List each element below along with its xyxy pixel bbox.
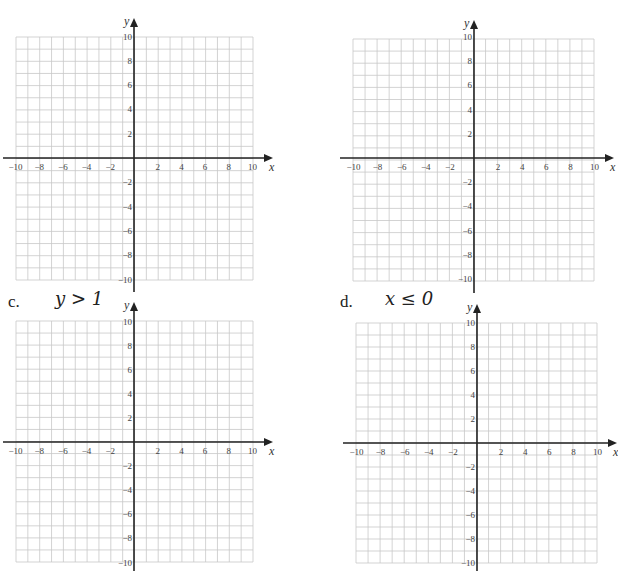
x-tick-label: 10 [590, 162, 600, 172]
y-axis-arrow-icon [130, 302, 138, 311]
x-tick-label: −2 [106, 162, 116, 172]
y-tick-label: 8 [468, 56, 473, 66]
coordinate-plane-d: xy−10−8−6−4−2246810108642−2−4−6−8−10 [343, 300, 618, 571]
x-tick-label: 6 [544, 162, 549, 172]
y-tick-label: 4 [471, 390, 476, 400]
x-tick-label: 4 [179, 446, 184, 456]
x-tick-label: 8 [227, 162, 232, 172]
x-tick-label: 2 [155, 446, 160, 456]
y-tick-label: −6 [122, 509, 132, 519]
y-tick-label: 8 [128, 341, 133, 351]
y-tick-label: −10 [461, 558, 476, 568]
coordinate-plane-b: xy−10−8−6−4−2246810108642−2−4−6−8−10 [340, 16, 616, 293]
x-tick-label: −10 [346, 162, 361, 172]
x-tick-label: 2 [155, 162, 160, 172]
y-tick-label: 2 [128, 413, 133, 423]
y-tick-label: −4 [465, 486, 475, 496]
x-tick-label: 6 [203, 446, 208, 456]
x-tick-label: 10 [248, 162, 258, 172]
x-tick-label: 2 [496, 162, 501, 172]
y-tick-label: 6 [468, 80, 473, 90]
y-tick-label: 6 [471, 366, 476, 376]
x-tick-label: −4 [421, 162, 431, 172]
x-tick-label: −8 [373, 162, 383, 172]
y-tick-label: 8 [128, 56, 133, 66]
x-tick-label: 8 [571, 447, 576, 457]
coordinate-grids: xy−10−8−6−4−2246810108642−2−4−6−8−10xy−1… [0, 0, 618, 571]
x-tick-label: 4 [179, 162, 184, 172]
y-tick-label: −2 [122, 461, 132, 471]
x-tick-label: 10 [593, 447, 603, 457]
x-tick-label: −10 [8, 446, 23, 456]
x-tick-label: 8 [227, 446, 232, 456]
y-tick-label: −2 [462, 177, 472, 187]
y-tick-label: −8 [122, 250, 132, 260]
y-tick-label: −8 [462, 250, 472, 260]
x-tick-label: −4 [424, 447, 434, 457]
y-axis-label: y [123, 298, 130, 312]
y-tick-label: −2 [465, 462, 475, 472]
x-tick-label: 6 [547, 447, 552, 457]
y-tick-label: −10 [118, 558, 133, 568]
y-axis-arrow-icon [470, 20, 478, 29]
x-tick-label: 2 [499, 447, 504, 457]
y-axis-label: y [466, 300, 473, 314]
y-axis-arrow-icon [473, 304, 481, 313]
y-axis-label: y [463, 16, 470, 30]
y-tick-label: −6 [462, 226, 472, 236]
x-tick-label: −10 [8, 162, 23, 172]
y-tick-label: −10 [458, 274, 473, 284]
y-tick-label: 2 [128, 129, 133, 139]
x-tick-label: −2 [448, 447, 458, 457]
coordinate-plane-a: xy−10−8−6−4−2246810108642−2−4−6−8−10 [3, 14, 275, 292]
x-tick-label: −6 [400, 447, 410, 457]
x-tick-label: −10 [349, 447, 364, 457]
x-axis-label: x [612, 445, 618, 459]
x-axis-label: x [268, 444, 275, 458]
y-tick-label: 8 [471, 342, 476, 352]
x-tick-label: −6 [58, 162, 68, 172]
y-tick-label: −10 [118, 275, 133, 285]
x-tick-label: −4 [82, 162, 92, 172]
x-tick-label: −6 [58, 446, 68, 456]
y-tick-label: 6 [128, 80, 133, 90]
y-tick-label: 4 [468, 105, 473, 115]
x-tick-label: 10 [248, 446, 258, 456]
y-tick-label: −6 [122, 226, 132, 236]
x-tick-label: −2 [445, 162, 455, 172]
y-tick-label: 4 [128, 389, 133, 399]
y-tick-label: 10 [466, 318, 476, 328]
x-tick-label: −8 [376, 447, 386, 457]
x-axis-label: x [609, 160, 616, 174]
x-tick-label: 8 [568, 162, 573, 172]
y-tick-label: 2 [471, 414, 476, 424]
y-tick-label: −6 [465, 510, 475, 520]
y-tick-label: −4 [122, 202, 132, 212]
y-axis-arrow-icon [130, 18, 138, 27]
x-tick-label: −8 [34, 162, 44, 172]
x-axis-label: x [268, 160, 275, 174]
y-tick-label: 10 [463, 32, 473, 42]
x-tick-label: −8 [34, 446, 44, 456]
y-tick-label: 6 [128, 365, 133, 375]
x-tick-label: 4 [523, 447, 528, 457]
y-tick-label: 4 [128, 104, 133, 114]
y-tick-label: −8 [465, 534, 475, 544]
x-tick-label: 4 [520, 162, 525, 172]
coordinate-plane-c: xy−10−8−6−4−2246810108642−2−4−6−8−10 [3, 298, 275, 571]
x-tick-label: −6 [397, 162, 407, 172]
y-tick-label: −2 [122, 177, 132, 187]
y-axis-label: y [123, 14, 130, 28]
y-tick-label: 10 [123, 317, 133, 327]
y-tick-label: −4 [122, 485, 132, 495]
y-tick-label: 2 [468, 129, 473, 139]
y-tick-label: −8 [122, 533, 132, 543]
x-tick-label: 6 [203, 162, 208, 172]
y-tick-label: 10 [123, 32, 133, 42]
x-tick-label: −2 [106, 446, 116, 456]
x-tick-label: −4 [82, 446, 92, 456]
y-tick-label: −4 [462, 201, 472, 211]
